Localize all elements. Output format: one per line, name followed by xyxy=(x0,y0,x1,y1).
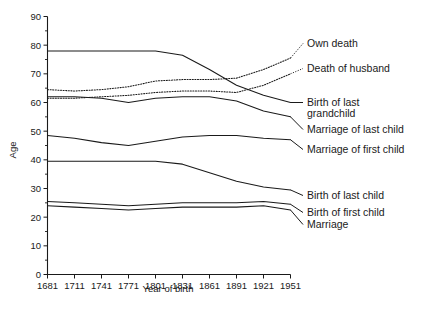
y-tick-label: 60 xyxy=(30,97,41,108)
y-axis-ticks xyxy=(44,17,48,275)
series-label-6: Birth of first child xyxy=(307,206,385,218)
series-line-2 xyxy=(48,51,291,103)
x-tick-label: 1711 xyxy=(64,280,84,291)
series-line-3 xyxy=(48,97,291,117)
series-label-3: Marriage of last child xyxy=(307,123,404,135)
series-line-1 xyxy=(48,74,291,98)
y-axis-tick-labels: 0102030405060708090 xyxy=(30,11,41,280)
leader-line-7 xyxy=(291,210,304,225)
y-tick-label: 10 xyxy=(30,240,41,251)
leader-line-3 xyxy=(291,117,304,130)
x-tick-label: 1741 xyxy=(91,280,112,291)
leader-line-1 xyxy=(291,69,304,74)
series-label-0: Own death xyxy=(307,37,358,49)
y-tick-label: 50 xyxy=(30,126,41,137)
y-tick-label: 90 xyxy=(30,11,41,22)
series-label-2: grandchild xyxy=(307,107,356,119)
chart-svg: 0102030405060708090 16811711174117711801… xyxy=(0,0,426,311)
y-tick-label: 40 xyxy=(30,154,41,165)
series-line-7 xyxy=(48,206,291,210)
leader-line-0 xyxy=(291,44,304,59)
y-tick-label: 20 xyxy=(30,212,41,223)
y-tick-label: 80 xyxy=(30,40,41,51)
x-tick-label: 1951 xyxy=(280,280,301,291)
x-tick-label: 1771 xyxy=(118,280,139,291)
series-line-0 xyxy=(48,58,291,91)
series-label-7: Marriage xyxy=(307,218,349,230)
leader-line-5 xyxy=(291,190,304,196)
life-course-chart: 0102030405060708090 16811711174117711801… xyxy=(0,0,426,311)
leader-lines-group xyxy=(291,44,304,225)
series-label-4: Marriage of first child xyxy=(307,143,405,155)
x-tick-label: 1891 xyxy=(226,280,247,291)
leader-line-6 xyxy=(291,204,304,212)
x-tick-label: 1861 xyxy=(199,280,220,291)
series-label-5: Birth of last child xyxy=(307,189,384,201)
series-line-5 xyxy=(48,161,291,190)
leader-line-4 xyxy=(291,140,304,150)
axis-lines xyxy=(48,17,291,275)
x-tick-label: 1681 xyxy=(37,280,58,291)
y-axis-title: Age xyxy=(7,142,18,159)
series-line-4 xyxy=(48,135,291,145)
x-tick-label: 1921 xyxy=(253,280,274,291)
x-axis-ticks xyxy=(48,275,291,279)
y-tick-label: 30 xyxy=(30,183,41,194)
series-line-6 xyxy=(48,201,291,205)
y-tick-label: 70 xyxy=(30,68,41,79)
series-labels-group: Own deathDeath of husbandBirth of lastgr… xyxy=(307,37,405,230)
x-axis-title: Year of birth xyxy=(143,283,194,294)
y-tick-label: 0 xyxy=(36,269,41,280)
series-label-1: Death of husband xyxy=(307,62,390,74)
data-series-group xyxy=(48,51,291,210)
